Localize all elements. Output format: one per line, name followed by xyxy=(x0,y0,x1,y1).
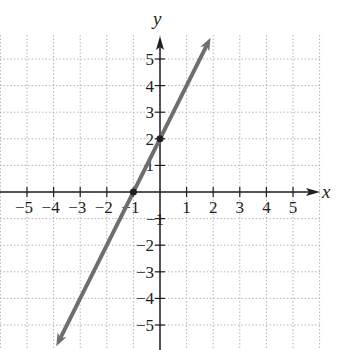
x-tick-label: −2 xyxy=(95,198,113,217)
y-tick-label: −3 xyxy=(136,263,154,282)
y-axis-label: y xyxy=(151,8,162,29)
x-tick-label: −3 xyxy=(68,198,86,217)
x-tick-label: 5 xyxy=(289,198,298,217)
x-tick-label: 1 xyxy=(182,198,191,217)
y-tick-label: −5 xyxy=(136,316,154,335)
y-tick-label: 5 xyxy=(146,50,155,69)
y-tick-label: 2 xyxy=(146,130,155,149)
axes xyxy=(0,36,320,350)
y-tick-label: 4 xyxy=(146,77,155,96)
x-tick-label: −5 xyxy=(15,198,33,217)
y-tick-label: −2 xyxy=(136,236,154,255)
y-tick-label: −1 xyxy=(146,210,164,229)
x-tick-label: 2 xyxy=(209,198,218,217)
x-tick-label: 3 xyxy=(236,198,245,217)
marked-point xyxy=(157,135,164,142)
x-tick-label: −4 xyxy=(42,198,61,217)
coordinate-plane: −5−4−3−2−112345−5−4−3−2−112345 x y xyxy=(0,0,340,350)
marked-point xyxy=(130,189,137,196)
y-tick-label: −4 xyxy=(136,289,155,308)
y-tick-label: 3 xyxy=(146,103,155,122)
x-tick-label: 4 xyxy=(262,198,271,217)
x-axis-label: x xyxy=(321,181,331,202)
